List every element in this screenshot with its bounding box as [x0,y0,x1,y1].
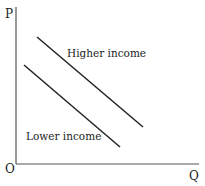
lower-income-label: Lower income [26,130,101,142]
diagram-svg: P Q O Higher income Lower income [0,0,205,186]
demand-shift-diagram: P Q O Higher income Lower income [0,0,205,186]
x-axis-label: Q [189,169,199,183]
higher-income-label: Higher income [67,47,146,59]
origin-label: O [5,162,15,176]
y-axis-label: P [5,7,13,21]
